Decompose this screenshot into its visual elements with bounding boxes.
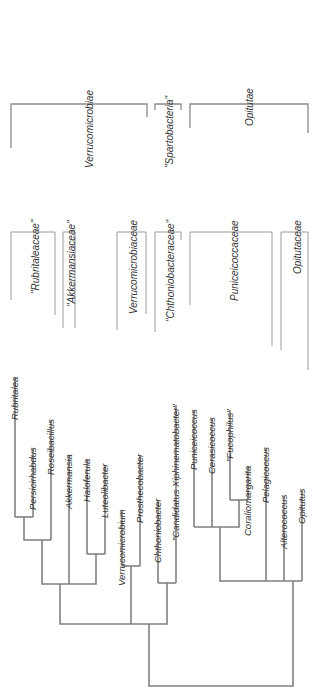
family-label-akkermansiaceae: "Akkermansiaceae" bbox=[67, 220, 77, 307]
leaf-label-candidatus-xiphinematobacter: "Candidatus Xiphinematobacter" bbox=[171, 404, 181, 541]
leaf-label-chthoniobacter: Chthoniobacter bbox=[153, 499, 163, 563]
leaf-label-persicirhabdus: Persicirhabdus bbox=[28, 447, 38, 510]
leaf-label-verrucomicrobium: Verrucomicrobium bbox=[117, 509, 127, 586]
leaf-label-prosthecobacter: Prosthecobacter bbox=[135, 454, 145, 523]
family-label-puniceicoccaceae: Puniceicoccaceae bbox=[230, 220, 240, 301]
class-label-spartobacteria: "Spartobacteria" bbox=[165, 96, 175, 168]
family-label-rubritaleaceae: "Rubritaleaceae" bbox=[31, 220, 41, 294]
leaf-label-luteolibacter: Luteolibacter bbox=[100, 464, 110, 518]
leaf-label-opitutus: Opitutus bbox=[297, 489, 307, 524]
family-label-verrucomicrobiaceae: Verrucomicrobiaceae bbox=[129, 220, 139, 314]
phylogenetic-tree bbox=[0, 0, 322, 690]
family-label-opitutaceae: Opitutaceae bbox=[293, 220, 303, 274]
leaf-label-rubritalea: Rubritalea bbox=[10, 377, 20, 420]
leaf-label-cerasicoccus: Cerasicoccus bbox=[207, 417, 217, 474]
leaf-label-pelagicoccus: Pelagicoccus bbox=[261, 447, 271, 503]
leaf-label-puniceicoccus: Puniceicoccus bbox=[189, 409, 199, 470]
class-brackets bbox=[11, 104, 308, 148]
leaf-label-haloferula: Haloferula bbox=[82, 459, 92, 502]
leaf-label-coraliomargarita: Coraliomargarita bbox=[243, 466, 253, 536]
bracket-verrucomicrobiae bbox=[11, 104, 147, 148]
family-label-chthoniobacteraceae: "Chthoniobacteraceae" bbox=[166, 220, 176, 322]
class-label-opitutae: Opitutae bbox=[245, 88, 255, 126]
class-label-verrucomicrobiae: Verrucomicrobiae bbox=[85, 90, 95, 168]
leaf-label-fucophilus: "Fucophilus" bbox=[225, 409, 235, 462]
family-brackets bbox=[11, 232, 308, 370]
leaf-label-alterococcus: Alterococcus bbox=[279, 495, 289, 549]
leaf-label-roseibacillus: Roseibacillus bbox=[46, 419, 56, 475]
leaf-label-akkermansia: Akkermansia bbox=[64, 454, 74, 509]
